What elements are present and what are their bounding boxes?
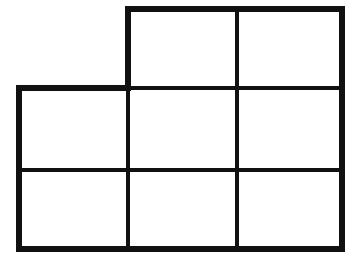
grid-cell-r3c2 bbox=[128, 170, 237, 249]
grid-cell-r3c3 bbox=[237, 170, 342, 249]
figure-canvas bbox=[0, 0, 357, 261]
grid-cell-r2c3 bbox=[237, 88, 342, 170]
grid-figure bbox=[0, 0, 357, 261]
grid-cell-r1c2 bbox=[128, 9, 237, 88]
grid-cell-r2c1 bbox=[19, 88, 128, 170]
grid-cell-r2c2 bbox=[128, 88, 237, 170]
grid-cell-r3c1 bbox=[19, 170, 128, 249]
grid-cell-r1c3 bbox=[237, 9, 342, 88]
